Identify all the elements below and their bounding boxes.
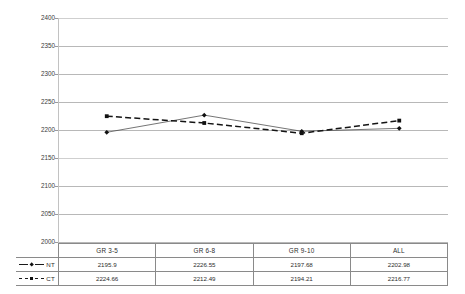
table-column-header: GR 6-8 [156, 244, 253, 258]
legend-dashed-line-icon [35, 278, 44, 279]
table-cell: 2202.98 [350, 258, 447, 272]
legend-label-ct: CT [46, 275, 55, 282]
table-cell: 2216.77 [350, 272, 447, 286]
table-cell: 2194.21 [253, 272, 350, 286]
table-cell: 2212.49 [156, 272, 253, 286]
legend-line-icon [19, 264, 28, 265]
legend-item-nt[interactable]: NT [16, 258, 59, 272]
data-point [105, 114, 109, 118]
legend-dashed-line-icon [19, 278, 28, 279]
table-cell: 2197.68 [253, 258, 350, 272]
data-point [202, 121, 206, 125]
series-markers-nt [104, 113, 401, 135]
data-point [300, 131, 304, 135]
line-chart: SCALED SCORE 2400 2350 2300 2250 2200 21… [0, 0, 465, 294]
legend-line-icon [35, 264, 44, 265]
legend-item-ct[interactable]: CT [16, 272, 59, 286]
data-point [104, 130, 109, 135]
data-point [397, 126, 402, 131]
table-header-row: GR 3-5 GR 6-8 GR 9-10 ALL [16, 244, 448, 258]
table-row: CT 2224.66 2212.49 2194.21 2216.77 [16, 272, 448, 286]
diamond-marker-icon [29, 262, 34, 267]
table-column-header: GR 9-10 [253, 244, 350, 258]
table-column-header: ALL [350, 244, 447, 258]
table-cell: 2195.9 [59, 258, 156, 272]
table-column-header: GR 3-5 [59, 244, 156, 258]
table-cell: 2226.55 [156, 258, 253, 272]
data-point [397, 119, 401, 123]
data-point [202, 113, 207, 118]
table-row: NT 2195.9 2226.55 2197.68 2202.98 [16, 258, 448, 272]
table-corner-cell [16, 244, 59, 258]
data-table: GR 3-5 GR 6-8 GR 9-10 ALL NT 2195.9 2226… [16, 243, 448, 286]
series-line-nt [107, 115, 400, 132]
square-marker-icon [30, 277, 33, 280]
table-cell: 2224.66 [59, 272, 156, 286]
legend-label-nt: NT [46, 261, 55, 268]
